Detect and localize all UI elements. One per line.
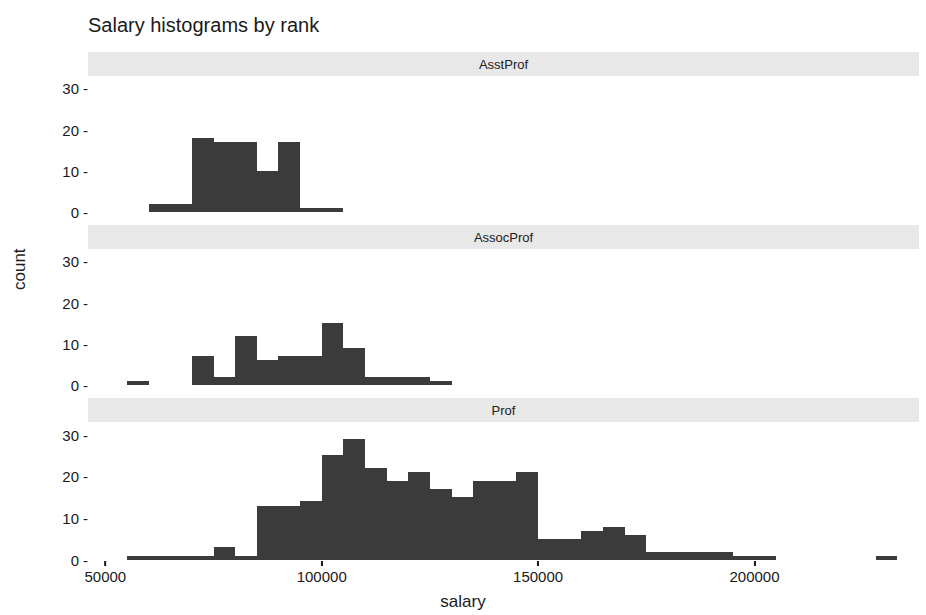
histogram-bar [170,204,192,212]
facet-strip-label: AssocProf [88,225,919,249]
y-tick-label: 10- [4,510,88,527]
histogram-bar [603,527,625,560]
histogram-bar [235,142,257,212]
histogram-bar [733,556,755,560]
histogram-bar [387,481,409,560]
histogram-bar [711,552,733,560]
histogram-bar [343,348,365,385]
histogram-bar [690,552,712,560]
histogram-bar [214,377,236,385]
histogram-bar [387,377,409,385]
histogram-bar [322,323,344,385]
histogram-bar [278,142,300,212]
histogram-bar [538,539,560,560]
histogram-bar [473,481,495,560]
x-tick-label: 50000 [84,561,126,585]
histogram-bar [235,336,257,385]
histogram-bar [668,552,690,560]
histogram-bar [214,547,236,560]
histogram-bar [300,208,322,212]
histogram-bar [408,472,430,560]
x-axis: 50000100000150000200000 [88,561,919,591]
histogram-bar [452,497,474,560]
facet-panel-assocprof: AssocProf0-10-20-30- [88,225,919,385]
histogram-bar [625,535,647,560]
histogram-bar [581,531,603,560]
x-tick-label: 100000 [297,561,347,585]
y-tick-label: 30- [4,253,88,270]
histogram-bar [516,472,538,560]
facet-panel-prof: Prof0-10-20-30- [88,398,919,560]
facet-panel-asstprof: AsstProf0-10-20-30- [88,52,919,212]
chart-canvas: Salary histograms by rank count AsstProf… [0,0,926,615]
histogram-bar [149,556,171,560]
y-tick-label: 20- [4,294,88,311]
facet-plot-area: 0-10-20-30- [88,249,919,385]
histogram-bar [322,455,344,560]
histogram-bar [170,556,192,560]
histogram-bar [127,381,149,385]
x-axis-label: salary [0,592,926,612]
histogram-bar [192,356,214,385]
facet-strip-label: AsstProf [88,52,919,76]
histogram-bar [560,539,582,560]
histogram-bar [430,381,452,385]
x-tick-label: 200000 [730,561,780,585]
y-tick-label: 10- [4,335,88,352]
facet-plot-area: 0-10-20-30- [88,422,919,560]
histogram-bar [149,204,171,212]
histogram-bar [257,506,279,560]
histogram-bar [235,556,257,560]
chart-title: Salary histograms by rank [88,14,319,37]
y-tick-label: 10- [4,162,88,179]
histogram-bar [192,556,214,560]
histogram-bars [88,422,919,560]
histogram-bar [365,377,387,385]
histogram-bar [365,468,387,560]
histogram-bars [88,76,919,212]
histogram-bar [127,556,149,560]
histogram-bar [646,552,668,560]
histogram-bar [192,138,214,212]
y-tick-label: 0- [4,552,88,569]
histogram-bars [88,249,919,385]
histogram-bar [300,501,322,560]
facet-strip-label: Prof [88,398,919,422]
y-tick-label: 0- [4,377,88,394]
y-tick-label: 30- [4,80,88,97]
y-tick-label: 0- [4,204,88,221]
histogram-bar [214,142,236,212]
histogram-bar [257,171,279,212]
histogram-bar [278,506,300,560]
histogram-bar [278,356,300,385]
y-tick-label: 20- [4,468,88,485]
histogram-bar [755,556,777,560]
facet-plot-area: 0-10-20-30- [88,76,919,212]
y-tick-label: 20- [4,121,88,138]
histogram-bar [495,481,517,560]
histogram-bar [300,356,322,385]
histogram-bar [343,439,365,560]
x-tick-label: 150000 [513,561,563,585]
histogram-bar [876,556,898,560]
histogram-bar [257,360,279,385]
y-tick-label: 30- [4,426,88,443]
histogram-bar [322,208,344,212]
histogram-bar [430,489,452,560]
histogram-bar [408,377,430,385]
